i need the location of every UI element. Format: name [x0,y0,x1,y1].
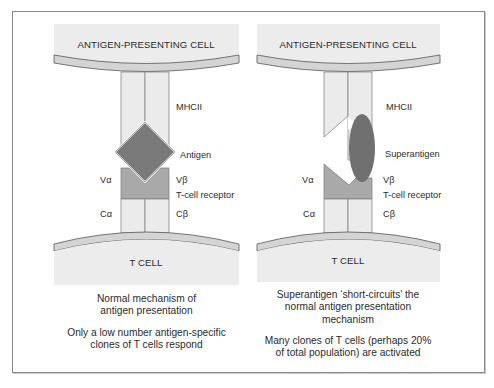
panel-normal: ANTIGEN-PRESENTING CELL T CELL MHCII Ant… [54,24,239,285]
caption-left-1: Normal mechanism of antigen presentation [54,293,239,318]
v-beta-label-left: Vβ [176,175,187,185]
superantigen-ellipse [349,114,375,182]
caption-line: Normal mechanism of [54,293,239,305]
antigen-label: Antigen [180,150,211,160]
tcr-c-beta-left [145,199,169,233]
tcell-label-left: T CELL [130,257,164,268]
tcr-c-beta-right [348,199,372,233]
caption-right-1: Superantigen ‘short-circuits’ the normal… [250,289,446,326]
superantigen-label: Superantigen [385,149,440,159]
tcr-c-alpha-right [324,199,348,233]
v-beta-label-right: Vβ [383,175,394,185]
panel-superantigen: ANTIGEN-PRESENTING CELL T CELL MHCII Sup… [257,24,441,282]
mhc-label-right: MHCII [386,102,412,112]
tcr-label-left: T-cell receptor [176,190,234,200]
apc-label-right: ANTIGEN-PRESENTING CELL [279,39,417,50]
caption-line: Many clones of T cells (perhaps 20% [250,335,446,347]
c-beta-label-left: Cβ [176,209,188,219]
tcr-label-right: T-cell receptor [383,190,441,200]
tcr-c-alpha-left [121,199,145,233]
caption-line: clones of T cells respond [44,339,249,351]
caption-line: of total population) are activated [250,347,446,359]
caption-left-2: Only a low number antigen-specific clone… [44,327,249,352]
caption-line: normal antigen presentation [250,301,446,313]
v-alpha-label-right: Vα [302,175,314,185]
c-alpha-label-right: Cα [303,209,316,219]
c-alpha-label-left: Cα [100,209,113,219]
caption-line: mechanism [250,314,446,326]
mhc-label-left: MHCII [176,102,202,112]
tcell-label-right: T CELL [332,255,366,266]
caption-line: Only a low number antigen-specific [44,327,249,339]
v-alpha-label-left: Vα [100,175,112,185]
mhc-alpha-chain-right [324,72,348,137]
caption-line: Superantigen ‘short-circuits’ the [250,289,446,301]
apc-label-left: ANTIGEN-PRESENTING CELL [77,39,215,50]
caption-line: antigen presentation [54,305,239,317]
c-beta-label-right: Cβ [383,209,395,219]
caption-right-2: Many clones of T cells (perhaps 20% of t… [250,335,446,360]
